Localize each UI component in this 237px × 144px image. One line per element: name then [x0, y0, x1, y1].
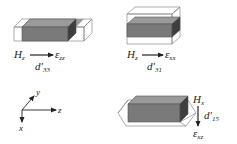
panel-d33: Hz εzz d′33 — [13, 19, 92, 74]
magnetostriction-diagram: Hz εzz d′33 Hz εxx d′31 y z x — [0, 0, 237, 144]
panel-d31: Hz εxx d′31 — [126, 7, 180, 74]
field-label: Hx — [192, 93, 205, 107]
coefficient-label: d′31 — [147, 60, 162, 74]
material-block — [127, 17, 180, 37]
strain-label: εxz — [193, 127, 203, 141]
strain-label: εzz — [55, 48, 65, 62]
y-axis-label: y — [35, 87, 40, 97]
coefficient-label: d′33 — [35, 60, 50, 74]
z-axis-label: z — [57, 105, 62, 115]
coefficient-label: d′15 — [204, 109, 219, 123]
field-label: Hz — [13, 48, 25, 62]
coordinate-axes: y z x — [18, 87, 62, 133]
y-axis-arrow — [22, 96, 34, 110]
strain-label: εxx — [165, 48, 176, 62]
field-label: Hz — [126, 48, 138, 62]
panel-d15: Hx d′15 εxz — [118, 93, 219, 141]
material-block — [128, 96, 188, 122]
x-axis-label: x — [18, 123, 23, 133]
